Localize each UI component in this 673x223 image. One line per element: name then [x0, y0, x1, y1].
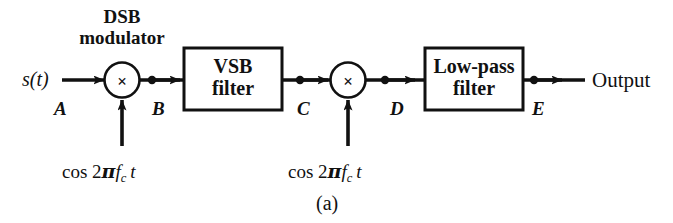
mult-2-symbol: ×	[338, 73, 358, 90]
wire-lpf-to-output	[523, 76, 585, 84]
carrier-1-prefix: cos 2	[62, 161, 102, 182]
vsb-filter-label: VSB filter	[184, 56, 282, 99]
mult-1-symbol: ×	[112, 73, 132, 90]
dsb-modulator-line2: modulator	[62, 27, 182, 48]
node-label-b: B	[152, 98, 165, 120]
node-label-c: C	[297, 98, 310, 120]
wire-mult2-to-lpf	[366, 76, 424, 84]
carrier-1-t: t	[130, 161, 135, 182]
vsb-filter-line1: VSB	[184, 56, 282, 78]
carrier-2-prefix: cos 2	[288, 161, 328, 182]
figure-canvas: DSB modulator s(t) A × B VSB filter C × …	[0, 0, 673, 223]
carrier-2-label: cos 2πfc t	[288, 160, 361, 186]
node-dot-c	[296, 76, 304, 84]
wire-mult1-to-vsb	[140, 76, 183, 84]
node-label-a: A	[54, 98, 67, 120]
lowpass-filter-line2: filter	[425, 78, 523, 100]
lowpass-filter-label: Low-pass filter	[425, 56, 523, 99]
figure-caption: (a)	[316, 192, 338, 215]
node-label-d: D	[390, 98, 404, 120]
vsb-filter-line2: filter	[184, 78, 282, 100]
node-label-e: E	[532, 98, 545, 120]
carrier-2-t: t	[356, 161, 361, 182]
carrier-1-pi: π	[102, 160, 116, 182]
dsb-modulator-label: DSB modulator	[62, 6, 182, 49]
carrier-2-pi: π	[328, 160, 342, 182]
output-label: Output	[592, 68, 650, 93]
lowpass-filter-line1: Low-pass	[425, 56, 523, 78]
input-signal-label: s(t)	[22, 68, 49, 91]
carrier-1-label: cos 2πfc t	[62, 160, 135, 186]
node-dot-b	[148, 76, 156, 84]
node-dot-d	[381, 76, 389, 84]
wire-vsb-to-mult2	[282, 76, 331, 84]
dsb-modulator-line1: DSB	[62, 6, 182, 27]
node-dot-e	[530, 76, 538, 84]
